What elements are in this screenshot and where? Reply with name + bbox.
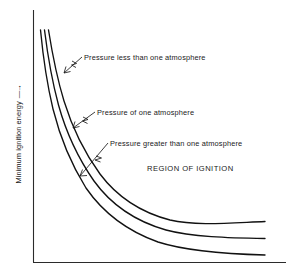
- annotation-pressure-less-than-one-atmosphere: Pressure less than one atmosphere: [84, 54, 206, 61]
- annotation-pressure-greater-than-one-atmosphere: Pressure greater than one atmosphere: [110, 140, 242, 147]
- annotation-region-of-ignition: REGION OF IGNITION: [147, 165, 234, 173]
- leader-tick-pressure-less: [72, 61, 77, 68]
- annotation-pressure-of-one-atmosphere: Pressure of one atmosphere: [97, 109, 194, 116]
- leader-line-pressure-less: [64, 57, 82, 73]
- leader-line-pressure-one: [73, 112, 95, 128]
- ignition-energy-chart: Minimum ignition energy—→ Pressure less …: [0, 0, 296, 278]
